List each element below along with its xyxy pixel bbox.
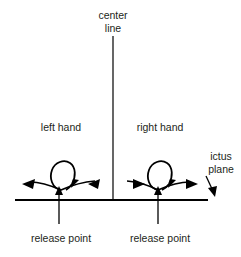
right-hand-gesture [127, 161, 198, 190]
right-hand-label: right hand [137, 121, 184, 133]
center-line-label-line2: line [105, 22, 122, 34]
center-line-label-line1: center [98, 9, 128, 21]
release-point-right-arrow [154, 186, 162, 224]
left-hand-left-arrowhead [22, 179, 35, 189]
release-point-label-right: release point [130, 232, 190, 244]
ictus-plane-pointer-arrow [206, 176, 217, 197]
ictus-plane-label-line1: ictus [210, 150, 232, 162]
right-hand-loop-circle [148, 161, 172, 190]
diagram-canvas: center line left hand right hand ictus p… [0, 0, 241, 257]
release-point-left-arrow [55, 186, 63, 224]
release-point-label-left: release point [31, 232, 91, 244]
ictus-plane-label-line2: plane [208, 163, 234, 175]
right-hand-right-arrowhead [186, 179, 198, 189]
left-hand-loop-circle [51, 161, 75, 190]
conducting-gesture-diagram: center line left hand right hand ictus p… [0, 0, 241, 257]
ictus-plane-arrowhead [208, 186, 217, 197]
release-point-right-arrowhead [154, 186, 162, 195]
left-hand-label: left hand [41, 121, 81, 133]
left-hand-gesture [22, 161, 100, 190]
right-hand-left-arrowhead [133, 179, 145, 189]
left-hand-sweep-curve [30, 181, 95, 190]
